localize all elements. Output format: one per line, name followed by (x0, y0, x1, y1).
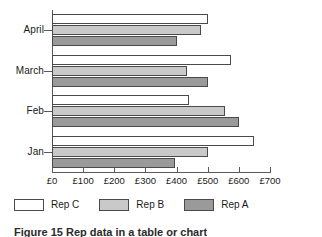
value-tick-label: £100 (73, 176, 94, 186)
legend-item-rep-b[interactable]: Rep B (99, 199, 164, 211)
value-tick-label: £200 (104, 176, 125, 186)
value-axis: £0£100£200£300£400£500£600£700 (52, 172, 271, 192)
bar-rep-c-april (52, 14, 208, 24)
bar-slot (52, 158, 270, 168)
bar-rep-c-march (52, 55, 231, 65)
value-tick (177, 167, 178, 173)
value-tick (52, 167, 53, 173)
category-axis-labels: AprilMarchFebJan (0, 10, 44, 172)
value-tick-label: £500 (197, 176, 218, 186)
bar-group (52, 132, 270, 173)
bar-slot (52, 95, 270, 105)
value-tick (239, 167, 240, 173)
bar-slot (52, 14, 270, 24)
value-tick-label: £400 (166, 176, 187, 186)
bar-slot (52, 25, 270, 35)
bar-slot (52, 36, 270, 46)
category-label-feb: Feb (26, 106, 44, 116)
bar-rep-b-april (52, 25, 201, 35)
category-label-march: March (16, 66, 44, 76)
chart-legend: Rep CRep BRep A (14, 199, 268, 211)
bar-slot (52, 106, 270, 116)
legend-swatch-icon (99, 199, 129, 211)
legend-swatch-icon (184, 199, 214, 211)
category-tick (44, 30, 52, 31)
value-tick (270, 167, 271, 173)
value-tick-label: £0 (47, 176, 58, 186)
bar-group (52, 51, 270, 92)
value-tick-label: £600 (228, 176, 249, 186)
value-tick (114, 167, 115, 173)
bar-rep-a-march (52, 77, 208, 87)
legend-label: Rep C (51, 200, 79, 210)
legend-swatch-icon (14, 199, 44, 211)
value-tick (208, 167, 209, 173)
category-tick (44, 152, 52, 153)
bar-rep-c-feb (52, 95, 189, 105)
value-tick-label: £700 (259, 176, 280, 186)
plot-area (52, 10, 270, 172)
value-tick-label: £300 (135, 176, 156, 186)
bar-slot (52, 117, 270, 127)
bar-rep-b-jan (52, 147, 208, 157)
legend-item-rep-a[interactable]: Rep A (184, 199, 248, 211)
value-tick (145, 167, 146, 173)
bar-rep-b-march (52, 66, 187, 76)
legend-label: Rep B (136, 200, 164, 210)
category-tick (44, 111, 52, 112)
category-label-jan: Jan (28, 147, 44, 157)
figure-container: AprilMarchFebJan £0£100£200£300£400£500£… (0, 0, 322, 237)
bar-group (52, 10, 270, 51)
bar-rep-b-feb (52, 106, 225, 116)
bar-slot (52, 136, 270, 146)
bar-rep-a-april (52, 36, 177, 46)
category-tick (44, 71, 52, 72)
category-label-april: April (23, 25, 44, 35)
bar-slot (52, 77, 270, 87)
bar-slot (52, 55, 270, 65)
legend-label: Rep A (221, 200, 248, 210)
figure-caption: Figure 15 Rep data in a table or chart (14, 226, 207, 237)
bar-rep-c-jan (52, 136, 254, 146)
bar-group (52, 91, 270, 132)
legend-item-rep-c[interactable]: Rep C (14, 199, 79, 211)
bar-slot (52, 147, 270, 157)
bar-slot (52, 66, 270, 76)
bar-rep-a-feb (52, 117, 239, 127)
value-tick (83, 167, 84, 173)
